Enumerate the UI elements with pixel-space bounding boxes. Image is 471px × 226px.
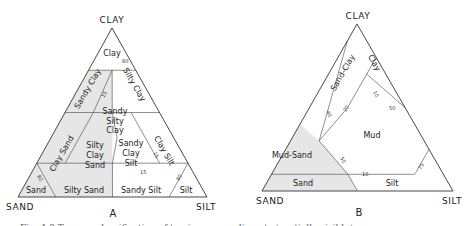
tick-label: 80: [122, 58, 128, 64]
region-sandy-clay-silt: Sandy Clay Silt: [119, 139, 144, 168]
tick-label: 15: [140, 169, 146, 175]
region-silty-sand: Silty Sand: [64, 186, 104, 195]
tick-label: 40: [325, 110, 333, 119]
region-sandy-silty-clay: Sandy Silty Clay: [103, 107, 128, 135]
region-sand: Sand: [293, 179, 313, 188]
shaded-region: [18, 70, 113, 197]
vertex-label-sand: SAND: [256, 196, 284, 206]
vertex-label-silt: SILT: [442, 196, 462, 206]
vertex-label-clay: CLAY: [100, 15, 125, 25]
region-clay: Clay: [366, 53, 383, 73]
region-clay: Clay: [103, 49, 121, 58]
ternary-figure: CLAY SAND SILT A Clay Sandy Clay Silty C…: [0, 0, 471, 226]
panel-label-a: A: [110, 208, 117, 219]
region-sand-clay: Sand-Clay: [329, 53, 357, 93]
figure-caption: Fig. 4.3 Ternary classification of terri…: [20, 223, 353, 226]
ternary-diagram-a: CLAY SAND SILT A Clay Sandy Clay Silty C…: [6, 15, 216, 219]
svg-text:Silt: Silt: [125, 159, 138, 168]
tick-label: 75: [417, 162, 425, 171]
panel-label-b: B: [356, 207, 363, 218]
boundary-clay-50: [367, 74, 405, 107]
svg-text:Clay: Clay: [122, 149, 140, 158]
svg-text:Clay: Clay: [106, 126, 124, 135]
region-silt: Silt: [180, 186, 193, 195]
tick-label: 50: [389, 105, 395, 111]
tick-label: 15: [152, 151, 160, 160]
tick-label: 50: [339, 156, 347, 165]
svg-text:Sandy: Sandy: [119, 139, 144, 148]
region-mud: Mud: [363, 131, 380, 140]
tick-label: 10: [362, 171, 368, 177]
vertex-label-silt: SILT: [196, 202, 216, 212]
svg-text:Sandy: Sandy: [103, 107, 128, 116]
region-sandy-silt: Sandy Silt: [121, 186, 161, 195]
region-silt: Silt: [386, 179, 399, 188]
shaded-sand-regions: [18, 70, 113, 197]
svg-text:Silty: Silty: [106, 117, 124, 126]
region-silty-clay-sand: Silty Clay Sand: [85, 141, 105, 170]
vertex-label-sand: SAND: [6, 202, 34, 212]
svg-text:Sand: Sand: [85, 161, 105, 170]
ternary-diagram-b: CLAY SAND SILT B Sand-Clay Clay Mud Mud-…: [256, 11, 462, 218]
svg-text:Silty: Silty: [86, 141, 104, 150]
vertex-label-clay: CLAY: [346, 11, 371, 21]
region-mud-sand: Mud-Sand: [272, 151, 312, 160]
svg-text:Clay: Clay: [86, 151, 104, 160]
region-sand: Sand: [26, 186, 46, 195]
tick-label: 10: [372, 90, 380, 99]
